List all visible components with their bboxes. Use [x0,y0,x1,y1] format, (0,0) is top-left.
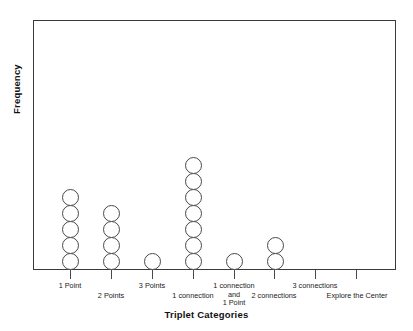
x-tick-5 [234,270,235,279]
dot-plot-chart: Frequency 1 Point 3 Points 1 connection … [0,0,413,331]
x-tick-4 [193,270,194,279]
plot-area-frame [33,20,396,270]
x-tick-1 [70,270,71,279]
x-label-3-points: 3 Points [122,282,182,291]
x-label-1-connection: 1 connection [161,292,225,301]
x-tick-2 [111,270,112,279]
x-label-1-point: 1 Point [40,282,100,291]
x-tick-8 [356,270,357,279]
x-label-2-points: 2 Points [81,292,141,301]
x-label-explore-the-center: Explore the Center [318,292,396,301]
x-label-2-connections: 2 connections [242,292,306,301]
x-tick-3 [152,270,153,279]
x-axis-title: Triplet Categories [0,309,413,320]
x-tick-6 [274,270,275,279]
x-tick-7 [315,270,316,279]
y-axis-title: Frequency [10,0,24,114]
x-label-3-connections: 3 connections [283,282,347,291]
